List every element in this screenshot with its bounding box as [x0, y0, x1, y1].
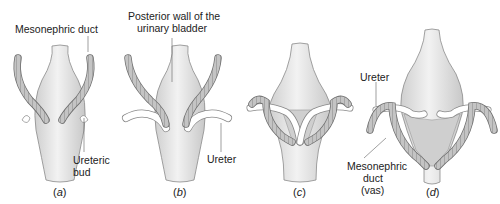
label-posterior-wall-line1: Posterior wall of the: [128, 10, 220, 22]
label-ureter-b: Ureter: [207, 153, 236, 165]
label-ureteric-bud-line2: bud: [73, 166, 91, 178]
label-posterior-wall-line2: urinary bladder: [137, 22, 207, 34]
label-mesonephric-duct: Mesonephric duct: [15, 23, 98, 35]
caption-c: (c): [293, 186, 306, 198]
label-mesonephric-d-line1: Mesonephric: [347, 160, 407, 172]
caption-a: (a): [53, 186, 66, 198]
caption-b: (b): [173, 186, 186, 198]
caption-d: (d): [426, 186, 439, 198]
label-ureteric-bud-line1: Ureteric: [73, 154, 110, 166]
label-mesonephric-d-line2: duct: [363, 172, 383, 184]
label-ureter-d: Ureter: [360, 71, 389, 83]
panel-c: [250, 43, 350, 182]
label-mesonephric-d-line3: (vas): [361, 184, 384, 196]
